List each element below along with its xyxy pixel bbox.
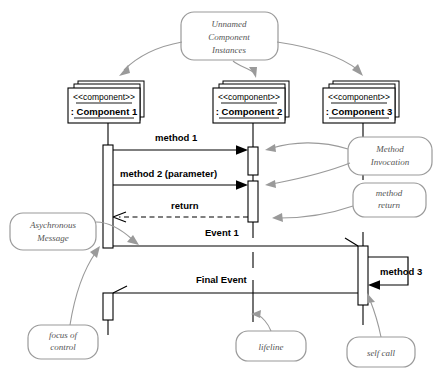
uml-sequence-diagram: <<component>> : Component 1 <<component>…	[0, 0, 443, 375]
activation-bar-component-1-second	[103, 293, 113, 320]
annotation-asychronous-message[interactable]: Asychronous Message	[10, 213, 96, 250]
annotation-focus-of-control-line-1: focus of	[49, 330, 79, 340]
annotation-focus-of-control[interactable]: focus of control	[28, 325, 98, 359]
message-return-label: return	[171, 200, 199, 211]
connector-unnamed-to-component-1	[119, 42, 182, 76]
annotation-method-return-line-2: return	[378, 200, 401, 210]
annotation-method-return-line-1: method	[376, 188, 403, 198]
message-final-event[interactable]: Final Event	[113, 274, 358, 293]
annotation-unnamed-instances-line-1: Unnamed	[212, 19, 247, 29]
component-box-1[interactable]: <<component>> : Component 1	[68, 81, 144, 123]
activation-bar-component-1-main	[103, 145, 113, 248]
component-box-3[interactable]: <<component>> : Component 3	[323, 81, 399, 123]
annotation-lifeline[interactable]: lifeline	[236, 331, 306, 361]
annotation-self-call-line-1: self call	[367, 348, 396, 358]
annotation-method-invocation[interactable]: Method Invocation	[348, 137, 432, 175]
annotation-focus-of-control-line-2: control	[50, 342, 76, 352]
component-3-stereotype: <<component>>	[328, 92, 390, 102]
annotation-unnamed-instances-line-2: Component	[208, 32, 250, 42]
message-return[interactable]: return	[113, 200, 248, 222]
annotation-lifeline-line-1: lifeline	[259, 342, 284, 352]
connector-focus-of-control-to-activation	[70, 246, 100, 325]
connector-asychronous-to-event-1	[96, 222, 139, 245]
connector-method-return-to-return-message	[272, 206, 353, 222]
message-method-2[interactable]: method 2 (parameter)	[113, 168, 248, 190]
annotation-method-return[interactable]: method return	[353, 183, 426, 217]
message-final-event-label: Final Event	[196, 274, 248, 285]
annotation-method-invocation-line-1: Method	[375, 144, 404, 154]
component-1-stereotype: <<component>>	[73, 92, 135, 102]
message-method-2-label: method 2 (parameter)	[120, 168, 217, 179]
component-1-name: : Component 1	[71, 106, 138, 117]
connector-self-call-to-method-3	[367, 293, 381, 337]
message-method-1-label: method 1	[155, 132, 198, 143]
connector-method-invocation-to-activation-1	[265, 143, 348, 152]
connector-unnamed-to-component-3	[277, 42, 363, 76]
component-2-stereotype: <<component>>	[218, 92, 280, 102]
sequence-diagram-canvas: <<component>> : Component 1 <<component>…	[0, 0, 443, 375]
message-method-3-self-call[interactable]: method 3	[368, 257, 422, 290]
message-event-1-label: Event 1	[205, 227, 240, 238]
activation-bar-component-3	[358, 246, 368, 305]
annotation-asychronous-message-line-2: Message	[36, 233, 69, 243]
connector-lifeline-to-lifeline	[251, 310, 271, 331]
component-2-name: : Component 2	[216, 106, 283, 117]
annotation-method-invocation-line-2: Invocation	[370, 157, 410, 167]
message-method-1[interactable]: method 1	[113, 132, 248, 155]
activation-bar-component-2-second	[248, 181, 258, 222]
activation-bar-component-2-first	[248, 147, 258, 175]
message-method-3-label: method 3	[380, 266, 422, 277]
component-box-2[interactable]: <<component>> : Component 2	[213, 81, 289, 123]
annotation-unnamed-instances[interactable]: Unnamed Component Instances	[181, 12, 278, 60]
connector-unnamed-to-component-2	[233, 61, 257, 78]
connector-method-invocation-to-activation-2	[265, 163, 350, 188]
component-3-name: : Component 3	[326, 106, 393, 117]
annotation-asychronous-message-line-1: Asychronous	[29, 220, 77, 230]
annotation-self-call[interactable]: self call	[347, 337, 415, 367]
message-event-1[interactable]: Event 1	[113, 227, 358, 246]
annotation-unnamed-instances-line-3: Instances	[211, 45, 246, 55]
